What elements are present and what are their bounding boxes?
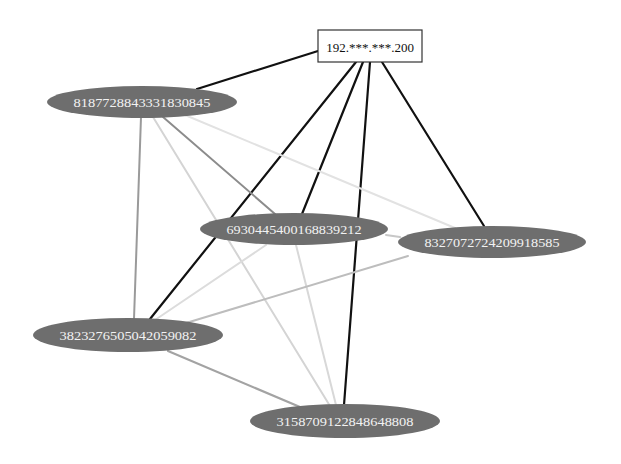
edge-n818-n382 xyxy=(134,117,141,319)
node-n382[interactable]: 3823276505042059082 xyxy=(33,318,223,352)
node-label: 3823276505042059082 xyxy=(60,329,197,343)
edge-n382-n315 xyxy=(168,351,300,407)
edge-root-n693 xyxy=(302,62,363,214)
node-label: 6930445400168839212 xyxy=(227,223,362,237)
root-ip-label: 192.***.***.200 xyxy=(326,40,414,55)
edge-n693-n832 xyxy=(386,235,400,237)
node-n315[interactable]: 3158709122848648808 xyxy=(250,404,440,438)
node-n832[interactable]: 8327072724209918585 xyxy=(398,226,586,258)
edge-n832-n382 xyxy=(186,256,408,323)
edge-n693-n382 xyxy=(155,245,266,320)
node-n818[interactable]: 8187728843331830845 xyxy=(47,86,237,118)
node-label: 8327072724209918585 xyxy=(425,236,560,250)
edge-n693-n315 xyxy=(296,245,336,405)
edge-n818-n693 xyxy=(163,117,275,214)
edge-root-n818 xyxy=(197,51,318,89)
node-label: 8187728843331830845 xyxy=(74,96,211,110)
node-n693[interactable]: 6930445400168839212 xyxy=(200,213,388,245)
nodes-layer: 8187728843331830845693044540016883921283… xyxy=(33,86,586,438)
node-label: 3158709122848648808 xyxy=(277,415,414,429)
edge-root-n832 xyxy=(382,62,484,226)
root-layer: 192.***.***.200 xyxy=(318,30,422,62)
network-graph: 8187728843331830845693044540016883921283… xyxy=(0,0,621,464)
